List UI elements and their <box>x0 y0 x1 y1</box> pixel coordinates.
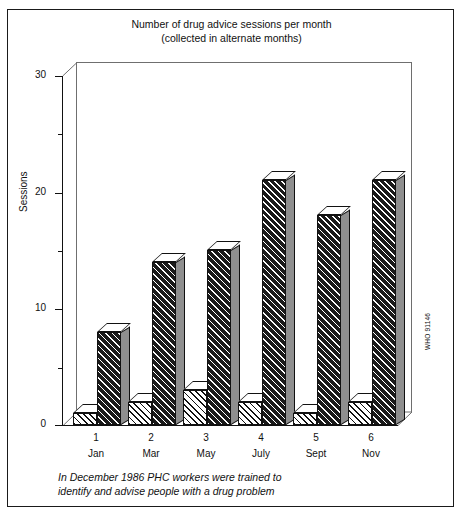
bar-face <box>152 262 176 425</box>
bar-group-jan <box>71 61 125 425</box>
bar-1987-mar <box>152 262 176 425</box>
x-tick-month-july: July <box>231 448 291 459</box>
chart-page: Number of drug advice sessions per month… <box>0 0 463 517</box>
caption-line2: identify and advise people with a drug p… <box>58 484 418 498</box>
x-tick-month-mar: Mar <box>121 448 181 459</box>
bar-1987-jan <box>97 332 121 425</box>
y-tick-label-0: 0 <box>20 418 46 429</box>
bar-face <box>207 250 231 425</box>
caption-line1: In December 1986 PHC workers were traine… <box>58 470 418 484</box>
y-tick-label-30: 30 <box>20 69 46 80</box>
bar-face <box>317 215 341 425</box>
figure-caption: In December 1986 PHC workers were traine… <box>58 470 418 498</box>
bar-group-mar <box>126 61 180 425</box>
y-tick-10 <box>55 309 62 310</box>
bar-1986-may <box>183 390 207 425</box>
y-tick-20 <box>55 193 62 194</box>
x-tick-number-4: 4 <box>231 432 291 443</box>
x-tick-number-6: 6 <box>341 432 401 443</box>
bar-group-may <box>181 61 235 425</box>
y-axis-title: Sessions <box>18 171 29 212</box>
bar-1987-sept <box>317 215 341 425</box>
bar-face <box>183 390 207 425</box>
bar-side <box>396 174 405 425</box>
x-tick-number-1: 1 <box>66 432 126 443</box>
bar-1986-jan <box>73 413 97 425</box>
bar-1987-may <box>207 250 231 425</box>
x-tick-month-sept: Sept <box>286 448 346 459</box>
bar-1987-nov <box>372 180 396 425</box>
bar-face <box>372 180 396 425</box>
bar-group-nov <box>346 61 400 425</box>
page-title: Number of drug advice sessions per month… <box>0 17 463 45</box>
y-tick-15 <box>58 251 62 252</box>
x-tick-number-5: 5 <box>286 432 346 443</box>
plot-area: 30 20 10 0 Sessions <box>62 62 412 426</box>
bar-face <box>128 402 152 425</box>
bar-face <box>238 402 262 425</box>
y-tick-25 <box>58 134 62 135</box>
y-tick-0 <box>55 425 62 426</box>
y-tick-30 <box>55 76 62 77</box>
bar-1987-july <box>262 180 286 425</box>
x-tick-month-jan: Jan <box>66 448 126 459</box>
bar-1986-sept <box>293 413 317 425</box>
chart-title-line1: Number of drug advice sessions per month <box>0 17 463 31</box>
source-code-label: WHO 91146 <box>424 313 431 350</box>
bar-1986-mar <box>128 402 152 425</box>
bar-group-july <box>236 61 290 425</box>
bar-face <box>97 332 121 425</box>
x-tick-month-nov: Nov <box>341 448 401 459</box>
y-tick-label-10: 10 <box>20 302 46 313</box>
bar-face <box>262 180 286 425</box>
bar-1986-july <box>238 402 262 425</box>
bar-1986-nov <box>348 402 372 425</box>
x-tick-month-may: May <box>176 448 236 459</box>
y-tick-5 <box>58 368 62 369</box>
x-tick-number-3: 3 <box>176 432 236 443</box>
bar-face <box>348 402 372 425</box>
y-axis-line <box>62 76 63 426</box>
bar-face <box>73 413 97 425</box>
bar-face <box>293 413 317 425</box>
x-tick-number-2: 2 <box>121 432 181 443</box>
chart-title-line2: (collected in alternate months) <box>0 31 463 45</box>
bar-group-sept <box>291 61 345 425</box>
